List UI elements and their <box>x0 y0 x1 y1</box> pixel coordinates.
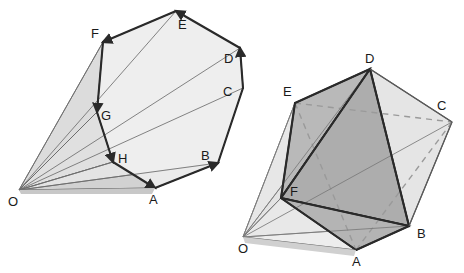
vertex-label-E-right: E <box>283 84 292 99</box>
vertex-label-B-right: B <box>417 226 426 241</box>
vertex-label-C-right: C <box>437 98 446 113</box>
vertex-label-C-left: C <box>223 84 232 99</box>
vertex-label-H-left: H <box>118 151 127 166</box>
vertex-label-G-left: G <box>101 108 111 123</box>
vertex-label-B-left: B <box>201 148 210 163</box>
vertex-label-O-left: O <box>8 194 18 209</box>
vertex-label-O-right: O <box>238 241 248 256</box>
vertex-label-E-left: E <box>178 17 187 32</box>
vertex-label-D-right: D <box>365 51 374 66</box>
vertex-label-F-right: F <box>290 184 298 199</box>
vertex-label-F-left: F <box>91 26 99 41</box>
geometry-figure: O F E D C B A H G <box>0 0 464 273</box>
figure-page: O F E D C B A H G <box>0 0 464 273</box>
vertex-label-D-left: D <box>224 51 233 66</box>
vertex-label-A-right: A <box>352 254 361 269</box>
vertex-label-A-left: A <box>149 192 158 207</box>
